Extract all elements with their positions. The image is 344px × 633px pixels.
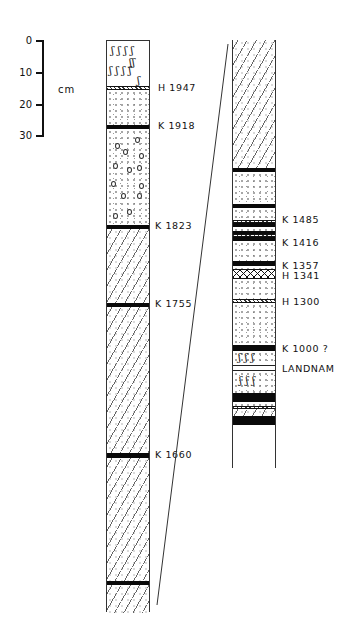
marker-k1416: K 1416 <box>282 238 319 248</box>
marker-k1000: K 1000 ? <box>282 344 328 354</box>
right-profile-column: ʃ ʃ ʃ ʃ ʃ ʃ <box>232 40 276 468</box>
marker-k1485: K 1485 <box>282 215 319 225</box>
marker-h1300: H 1300 <box>282 297 320 307</box>
sand-layer <box>233 241 275 261</box>
marker-h1341: H 1341 <box>282 271 320 281</box>
peat-sand-layer: ʃ ʃ ʃ <box>233 371 275 393</box>
peat-sand-layer: ʃ ʃ ʃ <box>233 351 275 365</box>
correlation-line <box>0 0 344 633</box>
tephra-layer <box>233 393 275 402</box>
marker-landnam: LANDNAM <box>282 364 334 374</box>
sand-layer <box>233 172 275 204</box>
tephra-h1341 <box>233 269 275 279</box>
sand-layer <box>233 208 275 220</box>
sand-layer <box>233 303 275 345</box>
sandy-loess-layer <box>233 409 275 416</box>
tephra-layer <box>233 416 275 425</box>
sand-layer <box>233 279 275 299</box>
sandy-loess-layer <box>233 40 275 168</box>
